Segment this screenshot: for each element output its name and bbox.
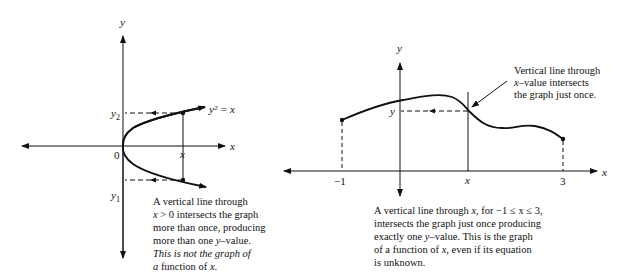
left-x-axis-label: x [230,140,235,152]
right-y-axis-label: y [397,42,402,54]
right-annotation: Vertical line through x–value intersects… [514,65,600,101]
y-value-label: y [390,105,395,117]
right-x-axis-label: x [602,166,607,178]
tick-three: 3 [560,175,566,187]
y2-label: y2 [111,107,120,124]
right-caption: A vertical line through x, for −1 ≤ x ≤ … [374,204,543,269]
left-y-axis-label: y [120,16,125,28]
curve-equation-label: y² = x [209,103,235,115]
left-x-tick-label: x [180,148,185,160]
parabola-curve [123,107,206,187]
right-endpoint [561,137,565,141]
tick-neg-one: −1 [334,175,346,187]
left-endpoint [340,118,344,122]
function-curve [342,95,563,139]
annotation-arrow [472,81,507,107]
y1-label: y1 [111,189,120,206]
tick-x: x [465,174,470,186]
left-caption: A vertical line through x > 0 intersects… [153,195,266,273]
origin-label: 0 [114,149,120,161]
